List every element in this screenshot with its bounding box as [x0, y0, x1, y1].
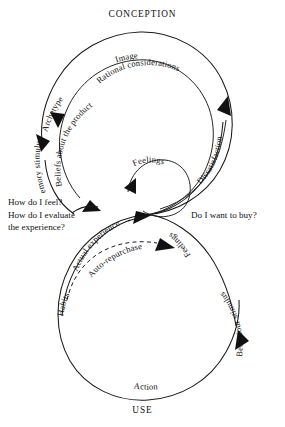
label-beliefs-about-the-product: Beliefs about the product [52, 99, 94, 187]
question-do-i-want-to-buy: Do I want to buy? [191, 209, 257, 222]
feelings-upper-loop-group [124, 160, 190, 217]
title-use: USE [0, 404, 285, 417]
question-block-left: How do I feel? How do I evaluate the exp… [8, 196, 75, 234]
actual-experience-arrowhead [133, 211, 152, 224]
label-feelings-upper: Feelings [131, 154, 167, 168]
question-how-do-i-evaluate: How do I evaluate [8, 209, 75, 222]
question-how-do-i-feel: How do I feel? [8, 196, 75, 209]
feelings-lower-arc [147, 214, 236, 326]
label-action: Action [133, 381, 158, 392]
question-the-experience: the experience? [8, 221, 75, 234]
diagram-canvas: Image Archetype Memory stimulus Rational… [0, 0, 285, 427]
label-dissatisfaction: Dissatisfaction [195, 135, 224, 186]
label-habits: Habits [55, 290, 71, 316]
lower-right-feed-group [147, 214, 236, 326]
feelings-upper-loop [128, 160, 190, 217]
label-behaviour-stimulus: Behaviour stimulus [217, 290, 245, 357]
feelings-upper-arrowhead [124, 178, 136, 194]
label-memory-stimulus: Memory stimulus [0, 0, 48, 195]
title-conception: CONCEPTION [0, 8, 285, 21]
label-rational-considerations: Rational considerations [94, 57, 182, 85]
